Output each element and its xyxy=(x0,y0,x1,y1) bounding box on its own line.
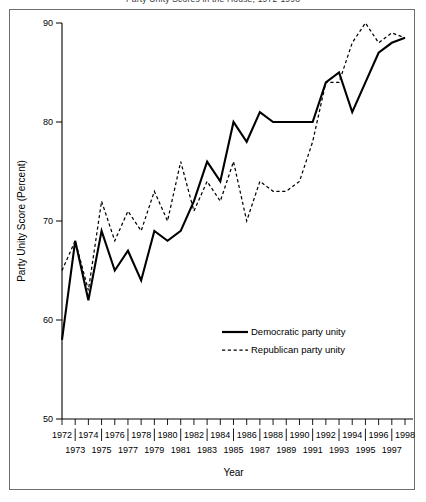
x-tick-label-bottom: 1985 xyxy=(223,445,243,455)
x-tick-label-bottom: 1995 xyxy=(355,445,375,455)
x-tick-label-top: 1990 xyxy=(289,430,309,440)
x-tick-label-top: 1974 xyxy=(78,430,98,440)
x-tick-label-top: 1978 xyxy=(131,430,151,440)
legend-label-republican: Republican party unity xyxy=(251,344,345,355)
x-tick-label-bottom: 1973 xyxy=(65,445,85,455)
x-tick-label-bottom: 1981 xyxy=(171,445,191,455)
series-republican-line xyxy=(62,23,405,290)
chart-figure: Party Unity Scores in the House, 1972-19… xyxy=(0,0,426,502)
x-tick-label-top: 1984 xyxy=(210,430,230,440)
x-tick-label-top: 1992 xyxy=(316,430,336,440)
x-tick-label-bottom: 1991 xyxy=(303,445,323,455)
y-tick-label: 70 xyxy=(43,216,53,226)
x-tick-label-bottom: 1993 xyxy=(329,445,349,455)
x-tick-label-top: 1996 xyxy=(369,430,389,440)
y-tick-label: 90 xyxy=(43,18,53,28)
x-tick-label-top: 1982 xyxy=(184,430,204,440)
y-tick-label: 50 xyxy=(43,414,53,424)
x-tick-label-bottom: 1983 xyxy=(197,445,217,455)
chart-canvas: 5060708090197219741976197819801982198419… xyxy=(0,0,426,502)
series-democratic-line xyxy=(62,38,405,340)
y-axis-label: Party Unity Score (Percent) xyxy=(16,160,27,282)
x-tick-label-top: 1980 xyxy=(158,430,178,440)
y-tick-label: 80 xyxy=(43,117,53,127)
x-tick-label-bottom: 1987 xyxy=(250,445,270,455)
x-tick-label-bottom: 1997 xyxy=(382,445,402,455)
legend-label-democratic: Democratic party unity xyxy=(251,326,346,337)
x-tick-label-top: 1988 xyxy=(263,430,283,440)
x-tick-label-bottom: 1979 xyxy=(144,445,164,455)
x-tick-label-bottom: 1975 xyxy=(92,445,112,455)
x-tick-label-top: 1994 xyxy=(342,430,362,440)
x-tick-label-top: 1976 xyxy=(105,430,125,440)
x-tick-label-top: 1998 xyxy=(395,430,415,440)
x-tick-label-top: 1986 xyxy=(237,430,257,440)
x-axis-label: Year xyxy=(223,467,244,478)
x-tick-label-bottom: 1977 xyxy=(118,445,138,455)
y-tick-label: 60 xyxy=(43,315,53,325)
x-tick-label-bottom: 1989 xyxy=(276,445,296,455)
x-tick-label-top: 1972 xyxy=(52,430,72,440)
